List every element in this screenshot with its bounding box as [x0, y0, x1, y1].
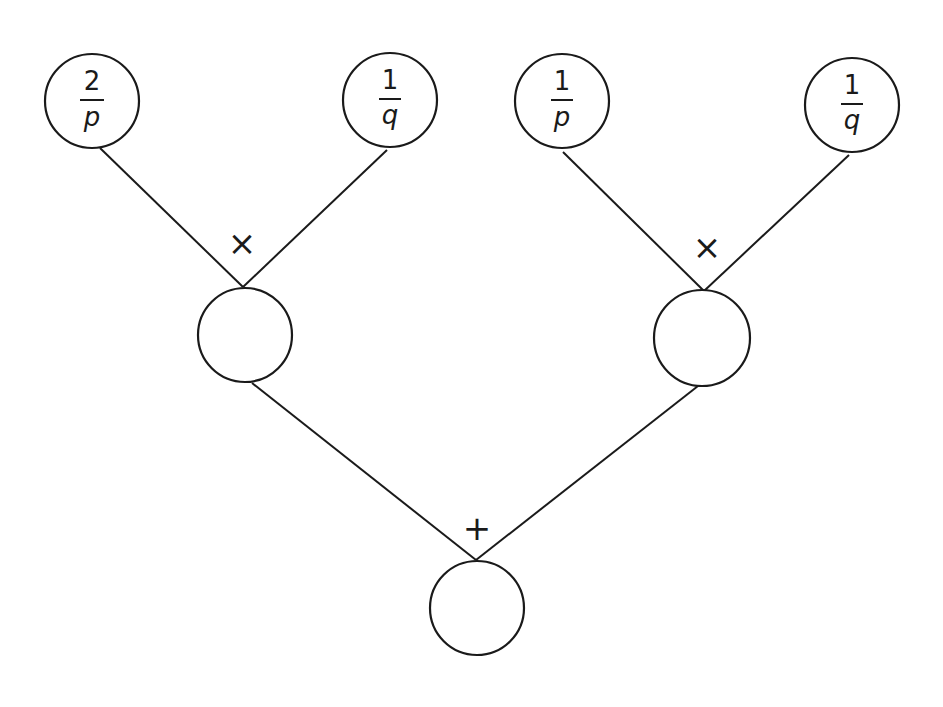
expression-tree-diagram: 2 p 1 q 1 p 1 q × × +	[0, 0, 943, 707]
plus-operator: +	[463, 508, 492, 548]
leaf-node-2: 1 q	[343, 53, 437, 147]
leaf-denominator: q	[844, 105, 861, 135]
edge-leaf3-midright	[563, 152, 704, 291]
leaf-numerator: 2	[84, 66, 101, 96]
leaf-numerator: 1	[844, 70, 861, 100]
leaf-node-3: 1 p	[515, 54, 609, 148]
edge-leaf4-midright	[704, 155, 849, 291]
leaf-denominator: p	[553, 102, 571, 132]
leaf-numerator: 1	[554, 66, 571, 96]
root-node	[430, 561, 524, 655]
edge-leaf1-midleft	[100, 148, 243, 287]
edge-midright-root	[476, 386, 698, 560]
leaf-denominator: q	[382, 100, 399, 130]
leaf-denominator: p	[83, 102, 101, 132]
intermediate-node-left	[198, 288, 292, 382]
edge-leaf2-midleft	[243, 150, 387, 287]
leaf-node-4: 1 q	[805, 58, 899, 152]
multiply-operator-right: ×	[693, 227, 722, 267]
intermediate-node-right	[654, 290, 750, 386]
multiply-operator-left: ×	[228, 223, 257, 263]
edge-midleft-root	[252, 383, 476, 560]
leaf-node-1: 2 p	[45, 54, 139, 148]
leaf-numerator: 1	[382, 65, 399, 95]
